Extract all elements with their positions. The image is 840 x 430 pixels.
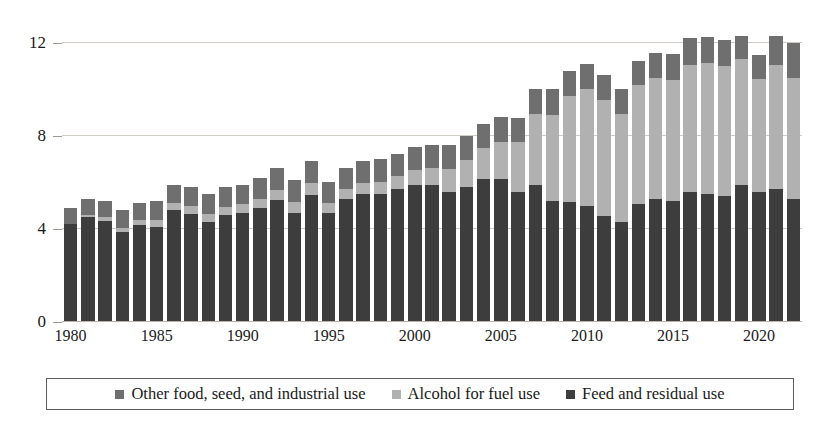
bar-segment <box>787 78 800 199</box>
bar-column <box>374 159 387 322</box>
bar-segment <box>666 80 679 201</box>
bar-segment <box>322 203 335 212</box>
bar-segment <box>477 148 490 179</box>
bar-column <box>546 89 559 322</box>
bar-segment <box>236 213 249 322</box>
bar-column <box>563 71 576 322</box>
bar-segment <box>735 185 748 322</box>
bar-segment <box>202 194 215 214</box>
bar-segment <box>64 208 77 224</box>
bar-column <box>597 75 610 322</box>
bar-segment <box>683 65 696 191</box>
x-axis-tick-label: 2010 <box>571 328 603 344</box>
bar-column <box>202 194 215 322</box>
bar-column <box>219 187 232 322</box>
bar-segment <box>167 185 180 204</box>
x-axis: 198019851990199520002005201020152020 <box>62 326 802 352</box>
bar-segment <box>184 214 197 322</box>
bar-segment <box>752 55 765 79</box>
bar-segment <box>408 185 421 322</box>
x-axis-tick-label: 2020 <box>743 328 775 344</box>
bar-segment <box>718 196 731 322</box>
bar-segment <box>219 215 232 322</box>
x-axis-tick-label: 1985 <box>141 328 173 344</box>
bar-segment <box>339 168 352 188</box>
bar-column <box>477 124 490 322</box>
bar-segment <box>253 208 266 322</box>
legend-item[interactable]: Alcohol for fuel use <box>392 386 540 403</box>
bar-segment <box>116 210 129 228</box>
bar-segment <box>288 213 301 322</box>
bar-segment <box>305 161 318 182</box>
bar-segment <box>477 124 490 148</box>
bar-segment <box>460 136 473 160</box>
bar-segment <box>425 185 438 322</box>
bar-segment <box>98 221 111 322</box>
bar-segment <box>701 37 714 64</box>
bar-segment <box>546 115 559 201</box>
bar-segment <box>735 36 748 60</box>
bar-segment <box>787 199 800 322</box>
bar-segment <box>494 142 507 179</box>
bar-segment <box>615 89 628 113</box>
bar-segment <box>356 161 369 182</box>
bar-column <box>632 61 645 322</box>
bar-segment <box>356 194 369 322</box>
y-axis-tick-label: 4 <box>6 220 46 237</box>
bar-segment <box>666 201 679 322</box>
bar-segment <box>150 201 163 220</box>
x-axis-tick-label: 2000 <box>399 328 431 344</box>
plot-area <box>62 24 802 322</box>
y-axis-tick-label: 8 <box>6 127 46 144</box>
bar-column <box>116 210 129 322</box>
bar-segment <box>133 203 146 220</box>
bar-segment <box>683 192 696 322</box>
bar-segment <box>202 214 215 222</box>
bar-segment <box>98 201 111 218</box>
legend-label: Alcohol for fuel use <box>408 386 540 403</box>
bar-segment <box>442 145 455 169</box>
bar-column <box>701 37 714 322</box>
bar-column <box>787 43 800 322</box>
bar-segment <box>546 201 559 322</box>
bar-column <box>391 154 404 322</box>
bar-column <box>752 55 765 322</box>
bar-segment <box>580 206 593 322</box>
bar-segment <box>563 202 576 322</box>
bar-segment <box>81 217 94 322</box>
bar-segment <box>81 199 94 216</box>
bar-column <box>270 168 283 322</box>
bar-segment <box>374 182 387 194</box>
bar-segment <box>356 183 369 194</box>
bar-segment <box>391 176 404 189</box>
bar-column <box>98 201 111 322</box>
y-axis-tick-mark <box>53 43 62 44</box>
bar-segment <box>632 61 645 85</box>
bar-segment <box>615 114 628 222</box>
bar-column <box>339 168 352 322</box>
bar-segment <box>511 192 524 322</box>
bar-segment <box>305 195 318 322</box>
bar-column <box>167 185 180 322</box>
bar-segment <box>202 222 215 322</box>
legend-item[interactable]: Other food, seed, and industrial use <box>115 386 365 403</box>
bar-column <box>683 38 696 322</box>
bar-column <box>64 208 77 322</box>
bar-segment <box>649 78 662 199</box>
bar-segment <box>270 168 283 189</box>
bar-segment <box>133 225 146 322</box>
bar-segment <box>339 199 352 322</box>
bar-segment <box>683 38 696 65</box>
x-axis-tick-label: 2005 <box>485 328 517 344</box>
legend-item[interactable]: Feed and residual use <box>566 386 725 403</box>
bar-column <box>408 147 421 322</box>
y-axis-tick-label: 0 <box>6 313 46 330</box>
bar-segment <box>288 180 301 202</box>
bar-segment <box>253 199 266 208</box>
bar-segment <box>460 187 473 322</box>
bar-column <box>649 53 662 322</box>
bar-segment <box>116 232 129 322</box>
bar-segment <box>167 203 180 210</box>
bar-column <box>735 36 748 322</box>
legend-label: Feed and residual use <box>582 386 725 403</box>
